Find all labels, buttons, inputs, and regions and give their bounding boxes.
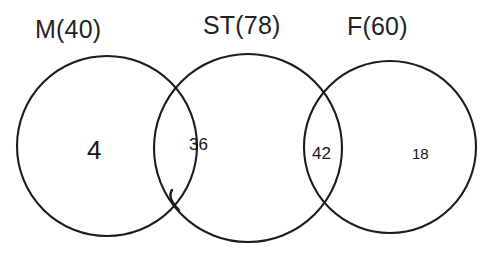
region-value-m-and-st: 36 — [189, 136, 208, 153]
venn-diagram: M(40) ST(78) F(60) 4 36 42 18 — [0, 0, 495, 254]
set-label-st: ST(78) — [203, 13, 281, 38]
region-value-m-only: 4 — [87, 137, 101, 163]
region-value-f-only: 18 — [412, 146, 429, 161]
region-value-st-and-f: 42 — [312, 145, 331, 162]
set-label-m: M(40) — [35, 17, 101, 42]
set-label-f: F(60) — [347, 14, 408, 39]
